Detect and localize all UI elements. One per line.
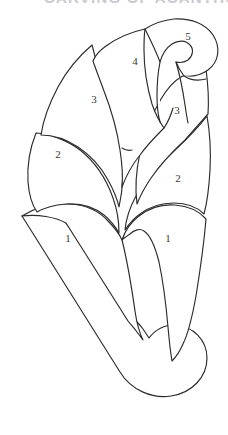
label-tier-1-left: 1 [65,232,71,244]
label-tier-5: 5 [185,30,191,42]
petal-diagram-svg: 1 1 2 2 3 3 4 5 [0,0,228,435]
label-tier-1-right: 1 [165,232,171,244]
label-tier-2-right: 2 [175,172,181,184]
label-tier-3-right: 3 [174,104,180,116]
petal-tier-5[interactable] [145,19,218,76]
label-tier-2-left: 2 [55,148,61,160]
figure-container: CARVING OF ACANTHUS 1 [0,0,228,435]
label-tier-3-left: 3 [91,93,97,105]
label-tier-4: 4 [132,55,138,67]
